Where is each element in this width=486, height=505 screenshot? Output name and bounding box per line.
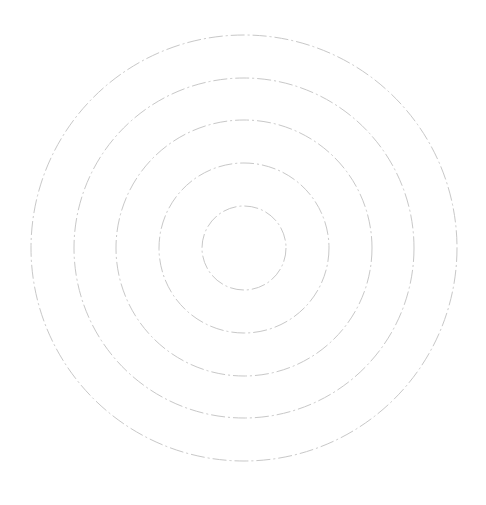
grid-ring-4: [74, 78, 414, 418]
radar-grid: [0, 0, 486, 505]
grid-ring-3: [116, 120, 372, 376]
radar-chart: [0, 0, 486, 505]
grid-ring-1: [202, 206, 286, 290]
grid-ring-5: [31, 35, 457, 461]
grid-ring-2: [159, 163, 329, 333]
